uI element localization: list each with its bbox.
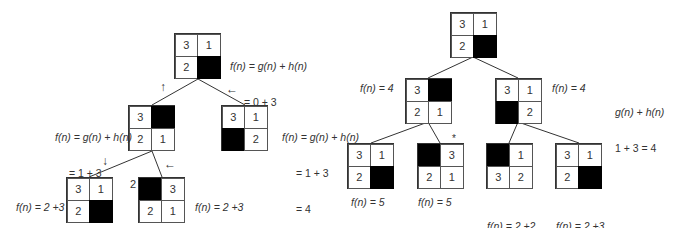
tile: 2 — [348, 166, 372, 189]
left-root-puzzle: 3 1 2 — [174, 33, 221, 79]
left-l2-right-puzzle: 3 2 1 — [138, 177, 185, 223]
left-l2-right-fn-label: f(n) = 2 +3 = 5 — [195, 177, 243, 228]
tile: 1 — [151, 128, 175, 151]
tile: 1 — [518, 79, 542, 102]
tile: 2 — [175, 56, 199, 79]
blank-tile — [496, 101, 520, 124]
formula-line: f(n) = 2 +3 — [195, 201, 243, 213]
blank-tile — [370, 166, 394, 189]
tile: 1 — [89, 178, 113, 201]
formula-line: f(n) = g(n) + h(n) — [282, 131, 359, 143]
left-l2-left-fn-label: f(n) = 2 +3 = 5 — [16, 177, 64, 228]
tile: 1 — [578, 144, 602, 167]
blank-tile — [473, 35, 497, 58]
tile: 3 — [67, 178, 91, 201]
tile: 2 — [556, 166, 580, 189]
tile: 2 — [451, 35, 475, 58]
tile: 2 — [518, 101, 542, 124]
tile: 1 — [197, 34, 221, 57]
formula-line: f(n) = g(n) + h(n) — [230, 60, 307, 72]
tile: 2 — [67, 200, 91, 223]
right-l1-right-puzzle: 3 1 2 — [495, 78, 542, 124]
left-arrow-icon: ← — [164, 157, 176, 171]
left-arrow-icon: ← — [226, 82, 238, 96]
blank-tile — [418, 144, 442, 167]
left-l1-right-puzzle: 3 1 2 — [221, 105, 268, 151]
blank-tile — [197, 56, 221, 79]
right-l2-fn-label-2: f(n) = 5 — [418, 196, 452, 208]
blank-tile — [487, 144, 511, 167]
tile: 2 — [418, 166, 442, 189]
tile: 3 — [161, 178, 185, 201]
blank-tile — [578, 166, 602, 189]
tile: 1 — [244, 106, 268, 129]
formula-line: f(n) = g(n) + h(n) — [55, 131, 132, 143]
right-l2-puzzle-1: 3 1 2 — [347, 143, 394, 189]
right-l1-left-fn-label: f(n) = 4 — [360, 82, 394, 94]
tile: 2 — [509, 166, 533, 189]
tile: 2 — [406, 101, 430, 124]
formula-line: f(n) = 2 +3 — [16, 201, 64, 213]
blank-tile — [139, 178, 163, 201]
tile: 1 — [440, 166, 464, 189]
right-l1-left-puzzle: 3 2 1 — [405, 78, 452, 124]
note-line: g(n) + h(n) — [615, 106, 664, 118]
tile: 1 — [473, 13, 497, 36]
tile: 3 — [556, 144, 580, 167]
tile: 1 — [428, 101, 452, 124]
tile: 3 — [348, 144, 372, 167]
right-note: g(n) + h(n) 1 + 3 = 4 — [615, 82, 664, 166]
tile: 3 — [440, 144, 464, 167]
tile: 1 — [161, 200, 185, 223]
tile: 2 — [244, 128, 268, 151]
right-l2-fn-label-3: f(n) = 2 +2 = 4 — [487, 196, 535, 228]
right-root-puzzle: 3 1 2 — [450, 12, 497, 58]
tile: 3 — [496, 79, 520, 102]
up-arrow-icon: ↑ — [160, 80, 166, 94]
blank-tile — [151, 106, 175, 129]
tile: 3 — [487, 166, 511, 189]
right-l2-puzzle-3: 1 3 2 — [486, 143, 533, 189]
down-arrow-icon: ↓ — [102, 154, 108, 168]
tile: 1 — [370, 144, 394, 167]
left-l1-left-puzzle: 3 2 1 — [128, 105, 175, 151]
tile: 3 — [175, 34, 199, 57]
note-line: 1 + 3 = 4 — [615, 142, 664, 154]
right-l2-fn-label-1: f(n) = 5 — [351, 196, 385, 208]
right-l1-right-fn-label: f(n) = 4 — [552, 82, 586, 94]
tile: 1 — [509, 144, 533, 167]
formula-line: = 4 — [282, 203, 359, 215]
formula-line: f(n) = 2 +3 — [556, 220, 604, 228]
blank-tile — [89, 200, 113, 223]
blank-tile — [222, 128, 246, 151]
side-number: 2 — [130, 178, 136, 190]
right-l2-puzzle-4: 3 1 2 — [555, 143, 602, 189]
blank-tile — [428, 79, 452, 102]
tile: 3 — [451, 13, 475, 36]
tile: 2 — [139, 200, 163, 223]
right-l2-puzzle-2: 3 2 1 — [417, 143, 464, 189]
tile: 3 — [222, 106, 246, 129]
right-l2-fn-label-4: f(n) = 2 +3 = 5 — [556, 196, 604, 228]
formula-line: f(n) = 2 +2 — [487, 220, 535, 228]
tile: 3 — [406, 79, 430, 102]
left-l2-left-puzzle: 3 1 2 — [66, 177, 113, 223]
